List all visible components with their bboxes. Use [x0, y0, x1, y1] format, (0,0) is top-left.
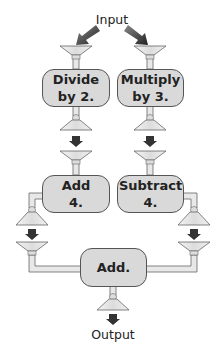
output-label: Output: [78, 327, 148, 342]
funnel-out-multiply-icon: [134, 115, 166, 131]
machine-subtract4-line2: 4.: [119, 194, 182, 211]
machine-multiply-line2: by 3.: [121, 88, 181, 105]
machine-multiply: Multiplyby 3.: [117, 69, 184, 107]
machine-add4-line1: Add: [62, 177, 91, 194]
funnel-out-divide-icon: [60, 115, 92, 131]
arrow-down-icon: [25, 229, 39, 240]
arrow-down-icon: [187, 229, 201, 240]
arrow-down-icon: [69, 136, 83, 147]
funnel-in-add-right-icon: [178, 242, 210, 255]
funnel-out-add-icon: [97, 294, 129, 311]
machine-divide-line2: by 2.: [53, 88, 99, 105]
funnel-out-add4-icon: [16, 207, 48, 226]
funnel-in-subtract4-icon: [134, 151, 166, 164]
input-label: Input: [82, 12, 142, 27]
arrow-down-icon: [143, 136, 157, 147]
input-arrow-right-icon: [124, 25, 148, 45]
machine-divide-line1: Divide: [53, 71, 99, 88]
machine-divide: Divideby 2.: [42, 69, 110, 107]
machine-multiply-line1: Multiply: [121, 71, 181, 88]
arrow-down-icon: [106, 314, 120, 325]
funnel-in-add4-icon: [60, 151, 92, 164]
funnel-in-multiply-icon: [134, 46, 166, 59]
funnel-out-subtract4-icon: [178, 207, 210, 226]
machine-add4-line2: 4.: [62, 194, 91, 211]
machine-subtract-4: Subtract4.: [117, 175, 184, 213]
machine-subtract4-line1: Subtract: [119, 177, 182, 194]
machine-add: Add.: [80, 248, 147, 287]
diagram-graphics: [0, 0, 224, 354]
funnel-in-divide-icon: [60, 46, 92, 59]
input-arrow-left-icon: [76, 25, 100, 45]
machine-add-4: Add4.: [42, 175, 110, 213]
funnel-in-add-left-icon: [16, 242, 48, 255]
machine-add-line1: Add.: [97, 259, 131, 276]
